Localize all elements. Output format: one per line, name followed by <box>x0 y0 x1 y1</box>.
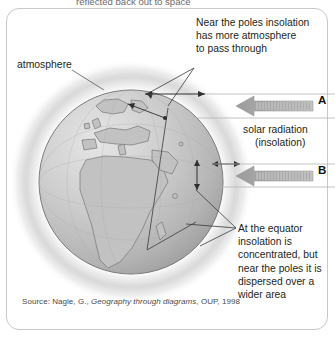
source-prefix: Source: Nagle, G., <box>22 297 91 306</box>
globe <box>39 90 223 274</box>
label-poles-note-line-1: Near the poles insolation <box>196 17 309 28</box>
label-poles-note: Near the poles insolation has more atmos… <box>196 16 332 56</box>
label-atmosphere: atmosphere <box>17 58 72 71</box>
label-solar-radiation: solar radiation (insolation) <box>243 123 333 149</box>
label-solar-radiation-main: solar radiation <box>243 124 308 135</box>
label-equator-note-line-2: insolation is <box>238 236 292 247</box>
ray-a-arrow <box>236 96 313 116</box>
label-poles-note-line-3: to pass through <box>196 43 267 54</box>
label-solar-radiation-sub: (insolation) <box>243 136 333 149</box>
label-equator-note-line-6: wider area <box>238 289 286 300</box>
source-suffix: , OUP, 1998 <box>196 297 240 306</box>
label-poles-note-line-2: has more atmosphere <box>196 30 296 41</box>
label-equator-note-line-5: dispersed over a <box>238 276 314 287</box>
source-title: Geography through diagrams <box>91 297 196 306</box>
label-equator-note-line-3: concentrated, but <box>238 249 318 260</box>
label-equator-note: At the equator insolation is concentrate… <box>238 222 334 301</box>
label-ray-b: B <box>318 164 326 177</box>
figure-root: reflected back out to space <box>0 0 335 337</box>
label-ray-a: A <box>318 94 326 107</box>
label-equator-note-line-1: At the equator <box>238 223 303 234</box>
label-equator-note-line-4: near the poles it is <box>238 263 322 274</box>
source-citation: Source: Nagle, G., Geography through dia… <box>22 297 240 306</box>
